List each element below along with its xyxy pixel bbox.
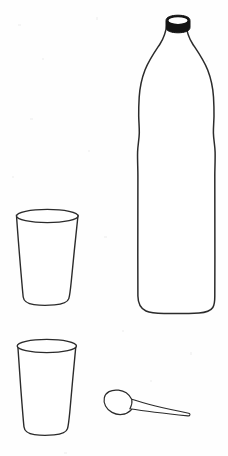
drawing-canvas bbox=[0, 0, 228, 456]
glass-lower-rim bbox=[17, 339, 76, 352]
glass-lower-wall bbox=[18, 346, 76, 436]
spoon-object bbox=[104, 390, 190, 416]
spoon-bowl bbox=[104, 390, 134, 414]
glass-upper-rim bbox=[17, 209, 79, 222]
bottle-object bbox=[138, 15, 216, 313]
glass-upper-object bbox=[17, 209, 79, 305]
bottle-cap-rim-icon bbox=[168, 17, 188, 25]
bottle-body-outline bbox=[138, 22, 216, 313]
glass-lower-object bbox=[17, 339, 76, 435]
glass-upper-wall bbox=[17, 216, 79, 306]
spoon-handle bbox=[130, 399, 190, 416]
bottle-cap bbox=[166, 15, 190, 33]
sketch-illustration bbox=[0, 0, 228, 456]
